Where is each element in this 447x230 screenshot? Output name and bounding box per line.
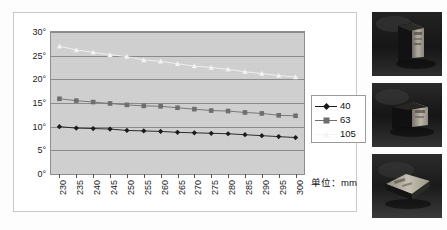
plot-inner: 0°5°10°15°20°25°30°230235240245250255260… [51, 32, 304, 174]
x-axis-tick-label: 255 [143, 180, 153, 195]
x-axis-tick [194, 174, 195, 178]
package-photo-tilted [372, 83, 442, 147]
data-point [276, 134, 281, 139]
data-point [74, 125, 79, 130]
series-40 [57, 124, 298, 140]
legend-item-63: 63 [315, 113, 363, 127]
x-axis-tick [76, 174, 77, 178]
x-axis-tick-label: 265 [177, 180, 187, 195]
x-axis-tick [211, 174, 212, 178]
x-axis-tick [178, 174, 179, 178]
data-point [158, 104, 163, 109]
data-point [57, 124, 62, 129]
legend-marker-square-icon [315, 115, 337, 125]
data-point [91, 126, 96, 131]
data-point [260, 111, 265, 116]
x-axis-tick-label: 250 [126, 180, 136, 195]
x-axis-tick [127, 174, 128, 178]
x-axis-tick [110, 174, 111, 178]
y-axis-tick-label: 10° [32, 122, 46, 132]
x-axis-tick [144, 174, 145, 178]
x-axis-tick-label: 300 [295, 180, 305, 195]
x-axis-tick-label: 240 [92, 180, 102, 195]
data-point [57, 43, 62, 48]
legend-label-63: 63 [340, 115, 351, 125]
data-point [141, 104, 146, 109]
legend-label-40: 40 [340, 101, 351, 111]
data-point [107, 126, 112, 131]
data-point [192, 107, 197, 112]
data-point [226, 131, 231, 136]
series-105 [57, 43, 298, 79]
x-axis-tick-label: 245 [109, 180, 119, 195]
data-point [293, 113, 298, 118]
data-point [175, 105, 180, 110]
x-axis-tick [296, 174, 297, 178]
photo-strip [372, 12, 442, 218]
package-photo-flat [372, 154, 442, 218]
data-point [74, 98, 79, 103]
data-point [226, 109, 231, 114]
data-point [243, 110, 248, 115]
x-axis-tick-label: 260 [160, 180, 170, 195]
x-axis-tick [228, 174, 229, 178]
chart-legend: 40 63 105 [311, 95, 366, 143]
data-point [259, 133, 264, 138]
x-axis-tick-label: 275 [210, 180, 220, 195]
data-point [91, 100, 96, 105]
y-axis-tick-label: 30° [32, 27, 46, 37]
data-point [209, 131, 214, 136]
x-axis-tick-label: 270 [193, 180, 203, 195]
data-point [57, 96, 62, 101]
x-axis-tick-label: 290 [261, 180, 271, 195]
x-axis-tick-label: 235 [75, 180, 85, 195]
legend-item-105: 105 [315, 127, 363, 141]
y-axis-tick-label: 25° [32, 51, 46, 61]
y-axis-tick-label: 20° [32, 74, 46, 84]
legend-marker-triangle-icon [315, 129, 337, 139]
data-point [209, 108, 214, 113]
data-point [158, 129, 163, 134]
legend-label-105: 105 [340, 129, 356, 139]
y-axis-tick-label: 5° [37, 145, 46, 155]
data-point [125, 103, 130, 108]
series-63 [57, 96, 298, 118]
x-axis-tick-label: 230 [58, 180, 68, 195]
x-axis-tick-label: 285 [244, 180, 254, 195]
y-axis-tick-label: 0° [37, 169, 46, 179]
data-point [293, 135, 298, 140]
figure-root: 0°5°10°15°20°25°30°230235240245250255260… [0, 0, 447, 230]
data-point [141, 128, 146, 133]
x-axis-tick [262, 174, 263, 178]
data-point [175, 130, 180, 135]
y-axis-tick-label: 15° [32, 98, 46, 108]
series-layer [51, 32, 304, 174]
data-point [108, 101, 113, 106]
x-axis-tick [279, 174, 280, 178]
data-point [192, 130, 197, 135]
chart-panel: 0°5°10°15°20°25°30°230235240245250255260… [13, 12, 357, 212]
unit-caption: 单位：mm [311, 175, 357, 189]
legend-marker-diamond-icon [315, 101, 337, 111]
data-point [124, 128, 129, 133]
package-photo-upright [372, 12, 442, 76]
x-axis-tick-label: 280 [227, 180, 237, 195]
plot-area: 0°5°10°15°20°25°30°230235240245250255260… [50, 31, 305, 175]
data-point [276, 113, 281, 118]
x-axis-tick-label: 295 [278, 180, 288, 195]
legend-item-40: 40 [315, 99, 363, 113]
x-axis-tick [59, 174, 60, 178]
x-axis-tick [93, 174, 94, 178]
x-axis-tick [245, 174, 246, 178]
data-point [242, 132, 247, 137]
x-axis-tick [161, 174, 162, 178]
